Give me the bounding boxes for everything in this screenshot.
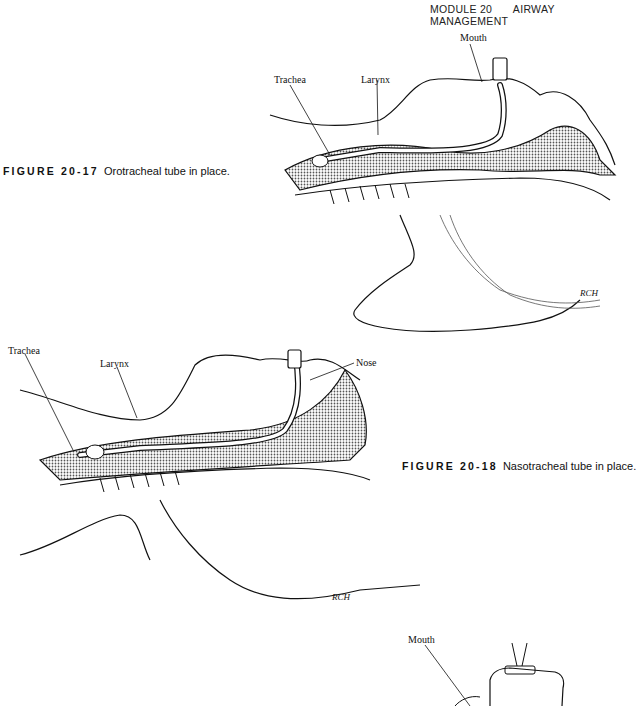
label-mouth-fig19: Mouth <box>408 634 435 645</box>
figure-20-18-caption: FIGURE 20-18 Nasotracheal tube in place. <box>402 460 636 472</box>
figure-caption-text: Nasotracheal tube in place. <box>503 460 636 472</box>
figure-20-17-caption: FIGURE 20-17 Orotracheal tube in place. <box>3 165 230 177</box>
label-trachea-fig18: Trachea <box>8 345 40 356</box>
label-mouth-fig17: Mouth <box>460 32 487 43</box>
label-larynx-fig17: Larynx <box>361 74 390 85</box>
figure-number: FIGURE 20-17 <box>3 165 99 177</box>
label-nose-fig18: Nose <box>356 357 377 368</box>
label-trachea-fig17: Trachea <box>274 74 306 85</box>
label-larynx-fig18: Larynx <box>100 358 129 369</box>
svg-text:RCH: RCH <box>579 288 599 298</box>
svg-text:RCH: RCH <box>331 592 351 602</box>
figure-caption-text: Orotracheal tube in place. <box>104 165 230 177</box>
figure-number: FIGURE 20-18 <box>402 460 498 472</box>
